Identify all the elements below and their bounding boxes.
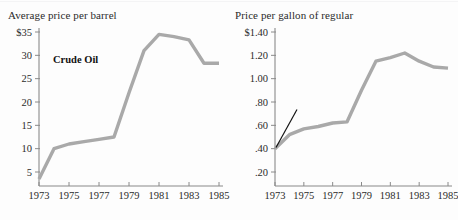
y-tick-label: 1.20: [250, 50, 268, 61]
y-tick-label: .40: [255, 143, 268, 154]
data-line-crude-oil: [39, 34, 219, 179]
data-line-gasoline: [275, 53, 448, 149]
x-tick-label: 1985: [209, 190, 230, 201]
y-tick-label: .80: [255, 97, 268, 108]
x-tick-label: 1983: [409, 190, 430, 201]
x-tick-label: 1983: [179, 190, 200, 201]
x-tick-label: 1977: [89, 190, 110, 201]
annotation-leader-line-opec: [276, 110, 297, 148]
x-tick-group-crude-oil: 1973197519771979198119831985: [29, 182, 230, 201]
x-tick-label: 1977: [322, 190, 343, 201]
y-tick-label: $35: [16, 27, 32, 38]
chart-panel-gasoline: Price per gallon of regular Gasoline OPE…: [229, 0, 458, 220]
dual-line-chart-figure: Average price per barrel Crude Oil $3530…: [0, 0, 458, 220]
x-tick-label: 1975: [293, 190, 314, 201]
x-tick-label: 1979: [351, 190, 372, 201]
x-tick-group-gasoline: 1973197519771979198119831985: [265, 182, 458, 201]
plot-area-crude-oil: $3530252015105 1973197519771979198119831…: [0, 0, 229, 220]
y-tick-label: $1.40: [244, 27, 268, 38]
x-tick-label: 1985: [438, 190, 458, 201]
y-tick-label: .60: [255, 120, 268, 131]
x-tick-label: 1979: [119, 190, 140, 201]
axes-gasoline: [275, 28, 452, 186]
x-tick-label: 1981: [380, 190, 401, 201]
chart-panel-crude-oil: Average price per barrel Crude Oil $3530…: [0, 0, 229, 220]
y-tick-label: 30: [22, 50, 33, 61]
y-tick-group-crude-oil: $3530252015105: [16, 27, 40, 178]
y-tick-label: 10: [22, 143, 33, 154]
x-tick-label: 1975: [59, 190, 80, 201]
plot-area-gasoline: $1.401.201.00.80.60.40.20 19731975197719…: [229, 0, 458, 220]
x-tick-label: 1981: [149, 190, 170, 201]
y-tick-label: 5: [27, 167, 32, 178]
y-tick-group-gasoline: $1.401.201.00.80.60.40.20: [244, 27, 276, 178]
y-tick-label: 15: [22, 120, 33, 131]
x-tick-label: 1973: [29, 190, 50, 201]
y-tick-label: 20: [22, 97, 33, 108]
x-tick-label: 1973: [265, 190, 286, 201]
y-tick-label: 25: [22, 73, 33, 84]
y-tick-label: .20: [255, 167, 268, 178]
y-tick-label: 1.00: [250, 73, 268, 84]
